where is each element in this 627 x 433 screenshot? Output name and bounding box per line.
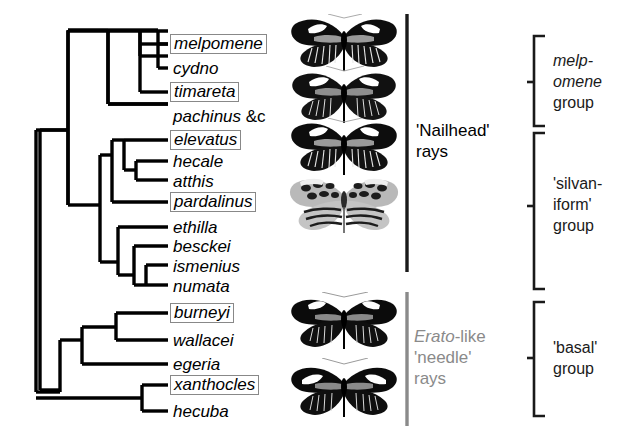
group-brackets bbox=[0, 0, 627, 433]
group-label-melpomene: melp- omene group bbox=[553, 50, 602, 113]
bracket-melpomene-group bbox=[534, 36, 545, 126]
group-label-silvaniform: 'silvan- iform' group bbox=[553, 173, 602, 236]
group-label-basal: 'basal' group bbox=[553, 337, 597, 379]
figure-canvas: melpomene cydno timareta pachinus &c ele… bbox=[0, 0, 627, 433]
bracket-basal-group bbox=[534, 302, 545, 416]
bracket-silvaniform-group bbox=[534, 133, 545, 289]
